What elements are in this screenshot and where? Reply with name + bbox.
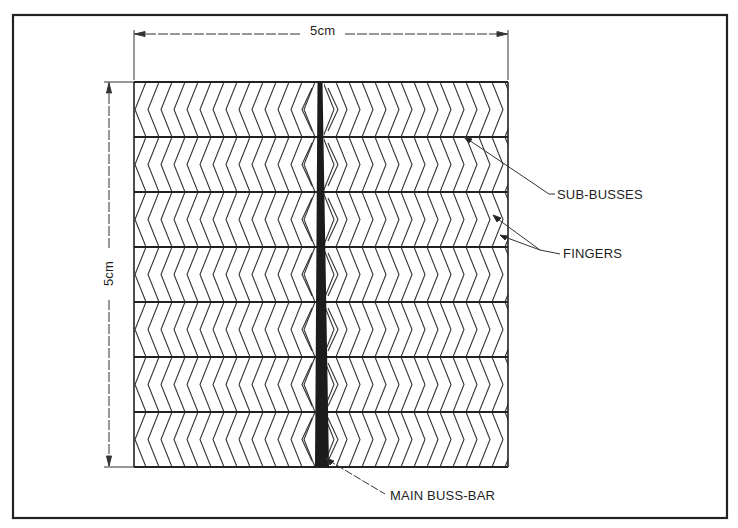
width-dimension-label: 5cm: [306, 23, 339, 38]
fingers-right-half: [324, 82, 508, 467]
fingers-label: FINGERS: [563, 246, 622, 261]
fingers-left-half: [134, 82, 316, 467]
height-dimension-label: 5cm: [101, 257, 116, 290]
main-buss-bar-label: MAIN BUSS-BAR: [390, 488, 495, 503]
sub-busses-label: SUB-BUSSES: [557, 187, 643, 202]
